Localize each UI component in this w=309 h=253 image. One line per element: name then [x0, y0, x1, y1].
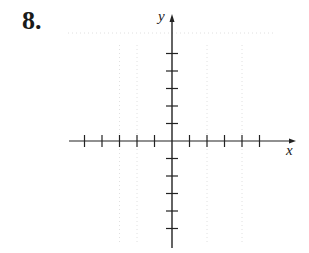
coordinate-plane: x y — [0, 0, 309, 253]
y-axis-arrowhead — [170, 14, 175, 22]
x-axis-label: x — [285, 142, 293, 158]
y-axis-label: y — [156, 8, 165, 24]
